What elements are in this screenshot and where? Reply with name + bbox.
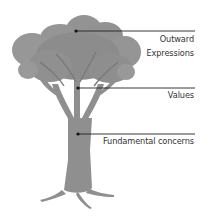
label-expressions: Expressions <box>146 48 194 58</box>
label-values: Values <box>168 90 194 100</box>
label-outward: Outward <box>160 34 194 44</box>
tree-diagram: Outward Expressions Values Fundamental c… <box>0 0 204 217</box>
tree-icon <box>12 15 141 209</box>
tree-illustration <box>0 0 204 217</box>
label-fundamental-concerns: Fundamental concerns <box>103 136 194 146</box>
